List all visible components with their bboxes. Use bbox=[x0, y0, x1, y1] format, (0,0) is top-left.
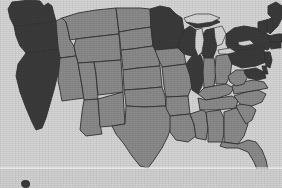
state-MA[interactable] bbox=[268, 34, 282, 42]
state-CA[interactable] bbox=[16, 49, 62, 130]
state-RI[interactable] bbox=[277, 42, 281, 48]
inset-marker[interactable] bbox=[21, 180, 30, 188]
state-WY[interactable] bbox=[74, 34, 121, 63]
map-container[interactable] bbox=[0, 0, 282, 188]
state-AL[interactable] bbox=[206, 110, 224, 142]
us-choropleth-map[interactable] bbox=[0, 0, 282, 188]
state-OR[interactable] bbox=[14, 21, 60, 53]
state-AR[interactable] bbox=[166, 96, 190, 116]
state-IN[interactable] bbox=[203, 58, 216, 88]
lower-panel-band bbox=[0, 169, 282, 188]
state-CO[interactable] bbox=[94, 60, 123, 95]
state-NM[interactable] bbox=[98, 92, 125, 127]
panel-divider bbox=[0, 167, 282, 169]
state-KS[interactable] bbox=[123, 66, 162, 90]
state-OK[interactable] bbox=[124, 87, 166, 107]
